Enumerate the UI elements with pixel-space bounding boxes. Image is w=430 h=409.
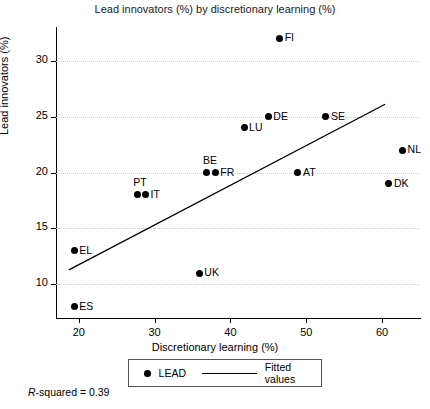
tick-label-x: 30 [140, 326, 170, 338]
point-label-el: EL [79, 244, 92, 256]
data-point-fr [212, 169, 219, 176]
data-point-de [265, 113, 272, 120]
point-label-de: DE [273, 110, 288, 122]
tick-label-y: 25 [22, 109, 48, 121]
scatter-chart: Lead innovators (%) by discretionary lea… [0, 0, 430, 409]
tick-mark-x [155, 318, 156, 323]
tick-label-x: 50 [291, 326, 321, 338]
data-point-fi [276, 35, 283, 42]
point-label-it: IT [150, 188, 159, 200]
tick-label-x: 60 [367, 326, 397, 338]
chart-title: Lead innovators (%) by discretionary lea… [0, 3, 430, 15]
legend-label-fitted: Fitted values [265, 361, 321, 385]
point-label-dk: DK [394, 177, 409, 189]
point-label-nl: NL [408, 143, 421, 155]
data-point-es [71, 303, 78, 310]
x-axis-label: Discretionary learning (%) [0, 341, 430, 353]
point-label-se: SE [331, 110, 345, 122]
legend-marker-line [202, 373, 257, 374]
tick-label-x: 20 [64, 326, 94, 338]
y-axis-label: Lead innovators (%) [0, 37, 10, 135]
tick-mark-x [382, 318, 383, 323]
point-label-be: BE [203, 154, 217, 166]
tick-label-y: 15 [22, 220, 48, 232]
point-label-at: AT [303, 166, 316, 178]
tick-label-y: 30 [22, 53, 48, 65]
tick-label-y: 10 [22, 276, 48, 288]
tick-label-x: 40 [215, 326, 245, 338]
plot-area: 1015202530 2030405060 FIDESELUNLBEFRATDK… [56, 27, 420, 318]
r-squared-annotation: R-squared = 0.39 [28, 386, 109, 398]
chart-legend: LEAD Fitted values [128, 359, 322, 387]
x-axis-line [56, 318, 421, 319]
data-point-pt [134, 191, 141, 198]
legend-marker-dot [144, 370, 151, 377]
data-point-nl [399, 147, 406, 154]
r-symbol: R [28, 386, 36, 398]
data-point-lu [241, 124, 248, 131]
data-point-uk [196, 270, 203, 277]
point-label-fi: FI [285, 31, 294, 43]
point-label-pt: PT [133, 176, 146, 188]
tick-label-y: 20 [22, 165, 48, 177]
tick-mark-x [79, 318, 80, 323]
point-label-lu: LU [249, 121, 262, 133]
tick-mark-x [306, 318, 307, 323]
point-label-fr: FR [220, 166, 234, 178]
fitted-line [56, 27, 420, 318]
point-label-es: ES [79, 300, 93, 312]
legend-label-lead: LEAD [159, 367, 186, 379]
point-label-uk: UK [204, 266, 219, 278]
tick-mark-x [230, 318, 231, 323]
r-squared-value: -squared = 0.39 [36, 386, 110, 398]
